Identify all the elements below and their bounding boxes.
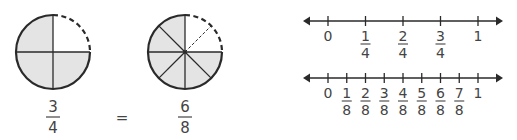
fourths-circle — [16, 15, 90, 89]
numerator: 6 — [180, 98, 190, 116]
arrow-left-icon — [303, 17, 310, 26]
center-dot — [183, 50, 187, 54]
tick-label: 1 — [474, 85, 483, 101]
tick-label-numerator: 1 — [361, 28, 370, 44]
arrow-left-icon — [303, 74, 310, 83]
tick-label-numerator: 6 — [436, 85, 445, 101]
fraction-six-eighths: 6 8 — [178, 98, 192, 137]
tick-label-denominator: 4 — [399, 45, 408, 61]
tick-label-denominator: 8 — [436, 102, 445, 118]
tick-label-denominator: 8 — [417, 102, 426, 118]
tick-label-numerator: 3 — [436, 28, 445, 44]
denominator: 4 — [48, 119, 58, 137]
tick-label-numerator: 3 — [380, 85, 389, 101]
arrow-right-icon — [496, 74, 503, 83]
tick-label-denominator: 4 — [436, 45, 445, 61]
fraction-equivalence-diagram: 3 4 = 6 8 01424341 0182838485868781 — [0, 0, 517, 140]
eighths-circle — [148, 15, 222, 89]
tick-label-denominator: 8 — [399, 102, 408, 118]
tick-label-denominator: 8 — [380, 102, 389, 118]
tick-label: 0 — [324, 85, 333, 101]
numerator: 3 — [48, 98, 58, 116]
tick-label-denominator: 8 — [361, 102, 370, 118]
tick-label-denominator: 4 — [361, 45, 370, 61]
tick-label-numerator: 4 — [399, 85, 408, 101]
denominator: 8 — [180, 119, 190, 137]
arrow-right-icon — [496, 17, 503, 26]
tick-label-numerator: 2 — [399, 28, 408, 44]
fraction-three-fourths: 3 4 — [46, 98, 60, 137]
tick-label-numerator: 1 — [342, 85, 351, 101]
tick-label: 0 — [324, 28, 333, 44]
equals-sign: = — [116, 109, 129, 127]
tick-label-numerator: 5 — [417, 85, 426, 101]
tick-label-denominator: 8 — [455, 102, 464, 118]
tick-label-denominator: 8 — [342, 102, 351, 118]
number-line-eighths: 0182838485868781 — [303, 73, 503, 118]
tick-label-numerator: 2 — [361, 85, 370, 101]
tick-label: 1 — [474, 28, 483, 44]
tick-label-numerator: 7 — [455, 85, 464, 101]
number-line-fourths: 01424341 — [303, 16, 503, 61]
